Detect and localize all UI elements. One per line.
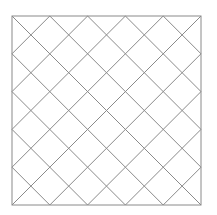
lattice-diagram — [0, 0, 217, 215]
